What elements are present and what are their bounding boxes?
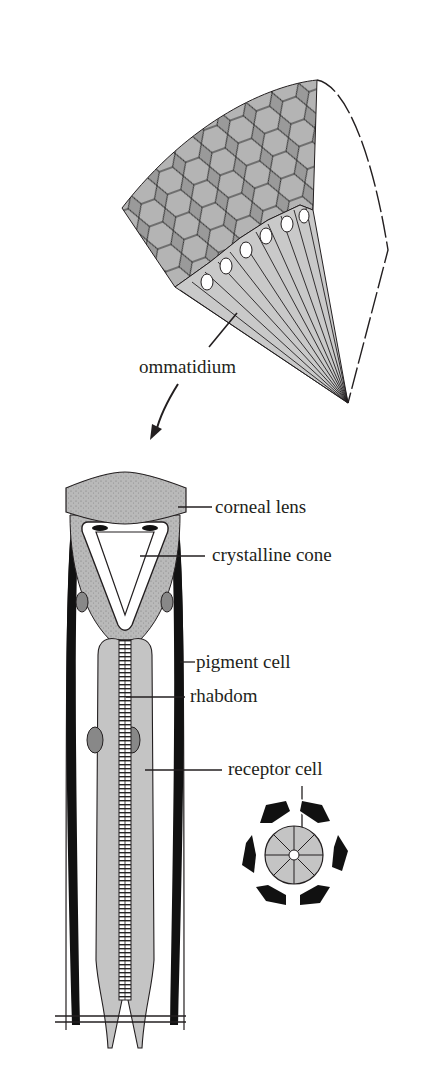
rhabdom-cross [289,850,299,860]
nucleus [76,592,88,612]
label-corneal-lens: corneal lens [215,497,306,516]
label-crystalline-cone: crystalline cone [212,545,332,564]
down-arrow [156,384,178,432]
longitudinal-section [55,472,186,1048]
label-receptor-cell: receptor cell [228,759,322,778]
receptor-cell-right [128,639,154,1048]
label-ommatidium: ommatidium [139,357,236,376]
corneal-lens [66,472,186,524]
receptor-cell-left [96,639,122,1048]
cross-section [242,801,348,905]
compound-eye [122,80,388,403]
ommatidium-diagram [0,0,442,1078]
receptor-nucleus [87,727,103,753]
label-pigment-cell: pigment cell [196,652,290,671]
nucleus [161,592,173,612]
arrow-head-icon [150,424,162,440]
label-rhabdom: rhabdom [190,686,258,705]
